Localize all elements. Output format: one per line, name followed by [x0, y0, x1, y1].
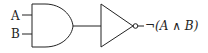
- not-gate-icon: [101, 4, 133, 47]
- output-label: ¬(A ∧ B): [145, 19, 199, 33]
- logic-circuit-diagram: A B ¬(A ∧ B): [0, 0, 208, 53]
- inversion-bubble-icon: [133, 24, 138, 29]
- and-gate-icon: [32, 4, 73, 47]
- input-label-a: A: [10, 9, 20, 23]
- input-label-b: B: [11, 27, 20, 41]
